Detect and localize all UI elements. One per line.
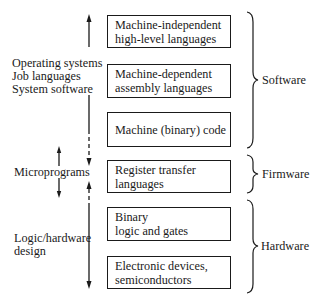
computer-levels-diagram: Machine-independent high-level languages… [0, 0, 320, 307]
arrow-up-icon [87, 14, 92, 22]
box-text: logic and gates [115, 224, 230, 238]
label-logic-hardware: Logic/hardware [14, 231, 91, 245]
box-text: Machine (binary) code [115, 123, 230, 137]
label-hardware: Hardware [261, 239, 309, 253]
box-register-transfer: Register transfer languages [107, 160, 231, 193]
brace-firmware [247, 155, 258, 193]
arrow-down-icon [87, 281, 92, 289]
label-job-languages: Job languages [12, 69, 81, 83]
label-microprograms: Microprograms [14, 165, 90, 179]
label-operating-systems: Operating systems [12, 56, 102, 70]
brace-software [247, 12, 258, 148]
box-text: semiconductors [115, 273, 230, 287]
arrow-up-icon [87, 181, 92, 189]
box-text: assembly languages [115, 81, 230, 95]
box-text: high-level languages [115, 32, 230, 46]
box-high-level-languages: Machine-independent high-level languages [107, 15, 231, 48]
box-text: Binary [115, 210, 230, 224]
box-text: Register transfer [115, 163, 230, 177]
label-system-software: System software [12, 82, 93, 96]
box-binary-logic: Binary logic and gates [107, 207, 231, 241]
box-text: Electronic devices, [115, 259, 230, 273]
arrow-down-icon [57, 191, 61, 198]
box-text: Machine-dependent [115, 67, 230, 81]
box-text: languages [115, 177, 230, 191]
box-machine-code: Machine (binary) code [107, 112, 231, 147]
box-text: Machine-independent [115, 18, 230, 32]
label-software: Software [262, 73, 306, 87]
label-design: design [14, 244, 46, 258]
arrow-up-icon [57, 146, 61, 153]
label-firmware: Firmware [262, 167, 309, 181]
brace-hardware [247, 200, 258, 293]
box-electronic-devices: Electronic devices, semiconductors [107, 256, 231, 289]
box-assembly-languages: Machine-dependent assembly languages [107, 64, 231, 98]
